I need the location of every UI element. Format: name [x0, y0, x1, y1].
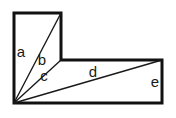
segment-label-d: d	[89, 63, 97, 80]
geometry-figure: a b c d e	[0, 0, 176, 118]
segment-label-b: b	[38, 51, 46, 68]
segment-label-e: e	[151, 73, 159, 90]
segment-label-a: a	[17, 43, 26, 60]
segment-label-c: c	[40, 67, 48, 84]
figure-canvas: a b c d e	[0, 0, 176, 118]
